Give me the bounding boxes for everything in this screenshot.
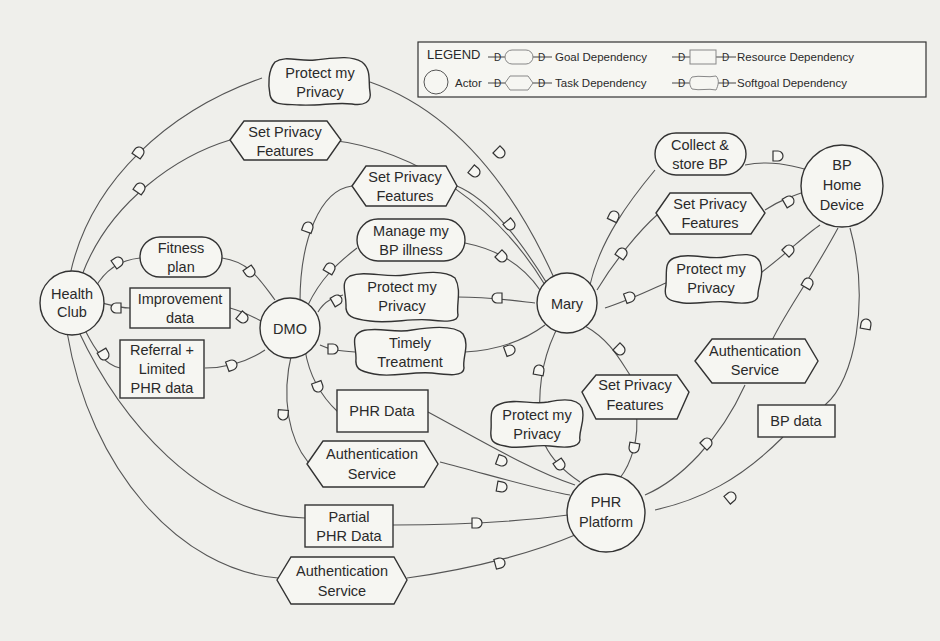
softgoal-timely-treatment[interactable]: Timely Treatment bbox=[355, 327, 466, 375]
dependum-label: Features bbox=[376, 188, 433, 204]
legend-resource-label: Resource Dependency bbox=[737, 51, 854, 63]
dependum-label: BP illness bbox=[379, 242, 442, 258]
legend: LEGEND Actor D D Goal Dependency D D Tas… bbox=[418, 42, 926, 97]
strategic-dependency-diagram: Health Club DMO Mary BP Home Device PHR … bbox=[0, 0, 940, 641]
legend-task-icon: D D bbox=[488, 76, 552, 90]
task-set-privacy-features-2[interactable]: Set Privacy Features bbox=[352, 166, 457, 206]
dependum-label: Protect my bbox=[285, 65, 355, 81]
dependum-label: plan bbox=[167, 259, 194, 275]
legend-actor-label: Actor bbox=[455, 77, 482, 89]
resource-referral-limited-phr[interactable]: Referral + Limited PHR data bbox=[120, 340, 204, 398]
svg-text:D: D bbox=[678, 52, 685, 63]
dependum-label: Timely bbox=[389, 335, 432, 351]
legend-softgoal-icon: D D bbox=[672, 76, 736, 90]
actor-label: BP bbox=[832, 157, 851, 173]
legend-title: LEGEND bbox=[427, 47, 480, 62]
dependum-label: Fitness bbox=[158, 240, 205, 256]
resource-partial-phr-data[interactable]: Partial PHR Data bbox=[305, 505, 393, 547]
actor-label: Home bbox=[823, 177, 862, 193]
dependum-label: Features bbox=[606, 397, 663, 413]
softgoal-protect-privacy-phr[interactable]: Protect my Privacy bbox=[491, 400, 583, 447]
dependum-label: Features bbox=[256, 143, 313, 159]
actor-dmo[interactable]: DMO bbox=[260, 298, 320, 358]
dependum-label: Collect & bbox=[671, 137, 729, 153]
actor-phr-platform[interactable]: PHR Platform bbox=[567, 474, 645, 552]
task-authentication-service-hc[interactable]: Authentication Service bbox=[277, 557, 407, 604]
dependum-label: store BP bbox=[672, 156, 728, 172]
actor-mary[interactable]: Mary bbox=[537, 273, 597, 333]
actor-label: Platform bbox=[579, 514, 633, 530]
dependum-label: Referral + bbox=[130, 342, 194, 358]
goal-manage-bp-illness[interactable]: Manage my BP illness bbox=[357, 219, 465, 261]
dependum-label: Set Privacy bbox=[598, 377, 672, 393]
dependum-label: PHR Data bbox=[349, 403, 415, 419]
dependum-label: Set Privacy bbox=[248, 124, 322, 140]
dependum-label: Improvement bbox=[138, 291, 223, 307]
dependum-label: Protect my bbox=[502, 407, 572, 423]
svg-text:D: D bbox=[722, 78, 729, 89]
dependum-label: Service bbox=[318, 583, 366, 599]
resource-bp-data[interactable]: BP data bbox=[758, 405, 835, 437]
dependum-label: Protect my bbox=[367, 279, 437, 295]
goal-collect-store-bp[interactable]: Collect & store BP bbox=[655, 133, 746, 175]
legend-goal-label: Goal Dependency bbox=[555, 51, 647, 63]
dependum-label: BP data bbox=[770, 413, 822, 429]
dependum-label: Features bbox=[681, 215, 738, 231]
actor-label: DMO bbox=[273, 321, 307, 337]
resource-phr-data[interactable]: PHR Data bbox=[337, 390, 428, 432]
resource-improvement-data[interactable]: Improvement data bbox=[130, 288, 230, 328]
dependum-label: Privacy bbox=[687, 280, 735, 296]
legend-resource-icon: D D bbox=[672, 50, 736, 64]
dependum-label: Manage my bbox=[373, 223, 450, 239]
dependum-label: Authentication bbox=[326, 446, 418, 462]
dependum-label: Privacy bbox=[296, 84, 344, 100]
svg-text:D: D bbox=[678, 78, 685, 89]
dependum-label: Service bbox=[731, 362, 779, 378]
actor-label: Health bbox=[51, 286, 93, 302]
task-authentication-service-dmo[interactable]: Authentication Service bbox=[307, 441, 438, 487]
softgoal-protect-privacy-dmo[interactable]: Protect my Privacy bbox=[344, 272, 458, 321]
svg-text:D: D bbox=[494, 52, 501, 63]
dependum-label: Privacy bbox=[378, 298, 426, 314]
dependum-label: PHR data bbox=[131, 380, 195, 396]
svg-text:D: D bbox=[494, 78, 501, 89]
legend-softgoal-label: Softgoal Dependency bbox=[737, 77, 847, 89]
softgoal-protect-privacy-bp[interactable]: Protect my Privacy bbox=[665, 255, 761, 304]
task-set-privacy-features-3[interactable]: Set Privacy Features bbox=[656, 193, 765, 234]
dependum-label: Partial bbox=[328, 509, 369, 525]
goal-fitness-plan[interactable]: Fitness plan bbox=[140, 237, 222, 277]
task-authentication-service-bp[interactable]: Authentication Service bbox=[695, 339, 818, 383]
dependum-label: Authentication bbox=[709, 343, 801, 359]
dependum-label: Set Privacy bbox=[368, 169, 442, 185]
legend-task-label: Task Dependency bbox=[555, 77, 647, 89]
dependum-label: Set Privacy bbox=[673, 196, 747, 212]
actor-label: Device bbox=[820, 197, 864, 213]
dependum-label: Treatment bbox=[377, 354, 443, 370]
dependum-label: Authentication bbox=[296, 563, 388, 579]
task-set-privacy-features-4[interactable]: Set Privacy Features bbox=[582, 375, 689, 419]
softgoal-protect-privacy-top[interactable]: Protect my Privacy bbox=[269, 58, 370, 106]
task-set-privacy-features-1[interactable]: Set Privacy Features bbox=[230, 121, 341, 160]
dependum-label: Protect my bbox=[676, 261, 746, 277]
svg-text:D: D bbox=[722, 52, 729, 63]
legend-goal-icon: D D bbox=[488, 50, 552, 64]
svg-text:D: D bbox=[538, 52, 545, 63]
dependum-label: PHR Data bbox=[316, 528, 382, 544]
actor-health-club[interactable]: Health Club bbox=[40, 271, 104, 335]
dependum-label: Service bbox=[348, 466, 396, 482]
actor-label: Mary bbox=[551, 296, 584, 312]
actor-bp-home-device[interactable]: BP Home Device bbox=[801, 145, 883, 227]
actor-label: PHR bbox=[591, 494, 622, 510]
dependum-label: Limited bbox=[139, 361, 186, 377]
svg-text:D: D bbox=[538, 78, 545, 89]
dependum-label: Privacy bbox=[513, 426, 561, 442]
dependum-label: data bbox=[166, 310, 195, 326]
actor-label: Club bbox=[57, 304, 87, 320]
